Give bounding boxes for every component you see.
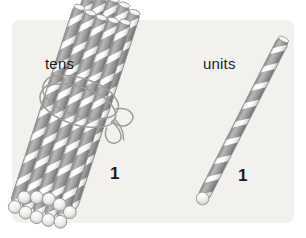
count-units: 1 bbox=[238, 167, 247, 184]
straws-artwork bbox=[0, 0, 306, 238]
label-tens: tens bbox=[45, 56, 74, 71]
label-units: units bbox=[203, 56, 236, 71]
count-tens: 1 bbox=[110, 165, 119, 182]
tens-bundle bbox=[0, 0, 170, 238]
straws-place-value-illustration: tens units 1 1 bbox=[0, 0, 306, 238]
